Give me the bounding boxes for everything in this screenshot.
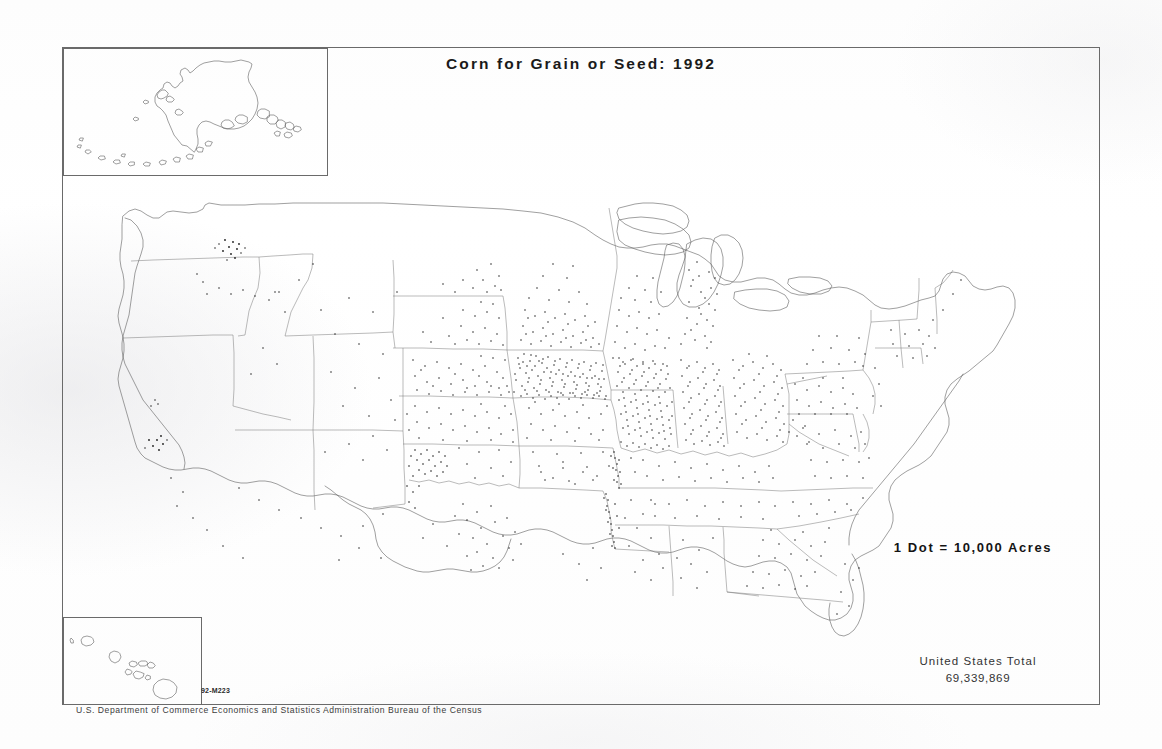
dot-cluster-iowa bbox=[513, 353, 607, 400]
dot-cluster-minnesota bbox=[520, 263, 600, 348]
dot-cluster-mississippi-delta bbox=[603, 451, 622, 549]
dot-cluster-kansas bbox=[406, 403, 514, 443]
dot-cluster-pacific-northwest bbox=[196, 239, 280, 375]
dot-cluster-west-virginia bbox=[788, 419, 810, 443]
dot-cluster-pennsylvania-newyork bbox=[794, 335, 866, 415]
national-outline bbox=[118, 203, 1015, 620]
dot-cluster-north-dakota bbox=[442, 263, 502, 293]
united-states-map bbox=[63, 48, 1099, 704]
dot-cluster-southeast bbox=[746, 527, 830, 590]
dot-density-layer bbox=[144, 239, 962, 615]
dot-cluster-ohio bbox=[732, 353, 785, 443]
united-states-total: United States Total 69,339,869 bbox=[863, 653, 1093, 686]
source-footer: U.S. Department of Commerce Economics an… bbox=[76, 705, 482, 715]
dot-cluster-missouri bbox=[526, 401, 610, 482]
dot-cluster-illinois bbox=[616, 357, 673, 450]
dot-cluster-nebraska bbox=[412, 355, 510, 396]
dot-cluster-mountain-west bbox=[274, 263, 398, 461]
map-frame: 1 Dot = 10,000 Acres United States Total… bbox=[62, 47, 1100, 705]
state-boundaries bbox=[123, 208, 953, 602]
dot-cluster-southwest bbox=[144, 399, 384, 561]
coastline-detail bbox=[122, 218, 963, 636]
dot-cluster-texas bbox=[422, 503, 522, 571]
dot-cluster-panhandle bbox=[406, 447, 512, 509]
dot-cluster-south-dakota bbox=[422, 301, 504, 346]
legend-dot-value: 1 Dot = 10,000 Acres bbox=[858, 540, 1088, 555]
dot-cluster-florida bbox=[836, 563, 860, 615]
dot-cluster-michigan bbox=[680, 261, 718, 349]
map-code: 92-M223 bbox=[201, 687, 230, 694]
dot-cluster-kentucky-tennessee bbox=[630, 457, 776, 520]
dot-cluster-wisconsin bbox=[612, 275, 670, 365]
total-label: United States Total bbox=[863, 653, 1093, 670]
total-value: 69,339,869 bbox=[863, 670, 1093, 687]
dot-cluster-indiana bbox=[680, 359, 725, 447]
